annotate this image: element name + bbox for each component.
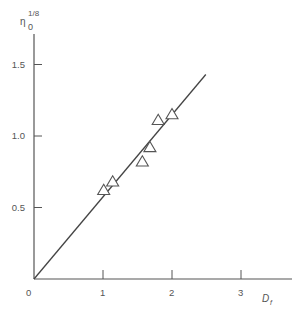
x-tick-label: 3 — [238, 287, 243, 298]
axes — [34, 34, 292, 279]
y-tick-label: 1.0 — [12, 130, 25, 141]
svg-text:η: η — [20, 16, 26, 27]
x-axis-label: D f — [262, 293, 273, 306]
svg-text:0: 0 — [28, 22, 33, 32]
svg-text:1/8: 1/8 — [28, 9, 40, 18]
scatter-chart: 1230.51.01.5 0 η 0 1/8 D f — [0, 0, 302, 318]
x-tick-label: 2 — [169, 287, 174, 298]
y-tick-label: 1.5 — [12, 59, 25, 70]
origin-label: 0 — [26, 287, 31, 298]
triangle-marker-icon — [136, 156, 148, 166]
svg-text:f: f — [270, 299, 273, 306]
y-tick-label: 0.5 — [12, 202, 25, 213]
x-tick-label: 1 — [100, 287, 105, 298]
triangle-marker-icon — [152, 114, 164, 124]
fit-line-segment — [34, 75, 206, 279]
y-axis-label: η 0 1/8 — [20, 9, 40, 32]
svg-text:D: D — [262, 293, 269, 304]
tick-labels: 1230.51.01.5 — [12, 59, 244, 299]
fit-line — [34, 75, 206, 279]
ticks — [34, 65, 241, 280]
